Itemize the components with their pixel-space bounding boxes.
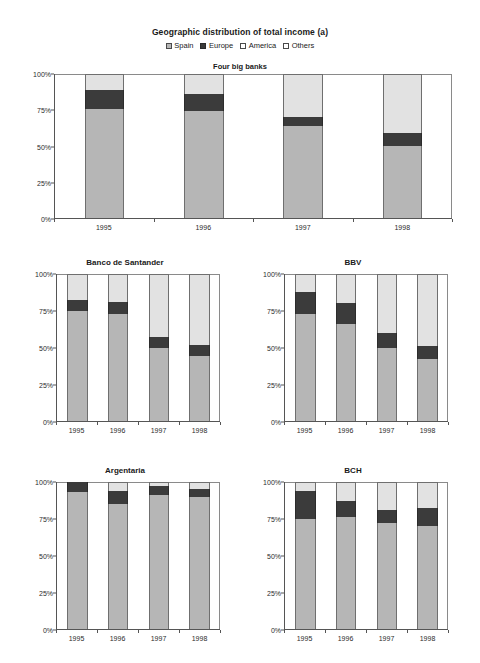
legend-item-america: America	[240, 41, 276, 50]
stacked-bar[interactable]	[149, 482, 169, 629]
x-tick-mark	[407, 422, 408, 425]
x-tick-mark	[325, 422, 326, 425]
bar-segment-spain	[108, 504, 128, 629]
bar-slot	[98, 274, 139, 421]
y-tick-label: 100%	[35, 479, 53, 486]
stacked-bar[interactable]	[189, 274, 209, 421]
chart-title: BCH	[258, 466, 448, 475]
bar-slot	[285, 482, 326, 629]
bar-slot	[57, 274, 98, 421]
bar-segment-spain	[189, 356, 209, 421]
stacked-bar[interactable]	[417, 482, 437, 629]
bar-segment-spain	[283, 126, 323, 218]
y-tick-label: 25%	[37, 179, 51, 186]
y-tick-label: 75%	[37, 107, 51, 114]
bar-segment-others	[149, 274, 169, 337]
x-tick-mark	[366, 422, 367, 425]
x-tick-mark	[220, 422, 221, 425]
bar-group	[285, 482, 448, 629]
y-tick-label: 100%	[263, 479, 281, 486]
x-tick-label: 1995	[284, 635, 325, 642]
bar-segment-europe	[336, 501, 356, 517]
legend-label-america: America	[249, 41, 277, 50]
x-tick-label: 1996	[97, 427, 138, 434]
bar-segment-spain	[85, 109, 125, 218]
legend-label-spain: Spain	[174, 41, 193, 50]
stacked-bar[interactable]	[295, 482, 315, 629]
y-tick-label: 50%	[267, 345, 281, 352]
x-tick-mark	[325, 630, 326, 633]
y-tick-label: 75%	[267, 308, 281, 315]
bar-slot	[407, 274, 448, 421]
y-tick-label: 25%	[39, 382, 53, 389]
bar-segment-europe	[108, 491, 128, 504]
bar-segment-europe	[295, 491, 315, 519]
bar-segment-spain	[67, 492, 87, 629]
x-tick-label: 1997	[366, 427, 407, 434]
stacked-bar[interactable]	[377, 482, 397, 629]
chart-bbv: BBV0%25%50%75%100%1995199619971998	[258, 258, 448, 438]
stacked-bar[interactable]	[417, 274, 437, 421]
bar-segment-others	[189, 482, 209, 489]
stacked-bar[interactable]	[336, 274, 356, 421]
y-axis: 0%25%50%75%100%	[28, 74, 54, 219]
bar-segment-others	[67, 274, 87, 300]
bar-segment-others	[283, 74, 323, 117]
chart-bch: BCH0%25%50%75%100%1995199619971998	[258, 466, 448, 646]
x-tick-label: 1995	[56, 635, 97, 642]
bar-segment-spain	[377, 348, 397, 422]
y-tick-label: 75%	[39, 308, 53, 315]
y-tick-label: 25%	[39, 590, 53, 597]
stacked-bar[interactable]	[283, 74, 323, 218]
x-tick-mark	[353, 219, 354, 222]
y-tick-label: 50%	[267, 553, 281, 560]
bar-slot	[367, 482, 408, 629]
y-tick-label: 100%	[35, 271, 53, 278]
x-tick-label: 1996	[325, 427, 366, 434]
stacked-bar[interactable]	[108, 274, 128, 421]
stacked-bar[interactable]	[383, 74, 423, 218]
y-tick-label: 50%	[39, 553, 53, 560]
stacked-bar[interactable]	[336, 482, 356, 629]
y-tick-label: 100%	[33, 71, 51, 78]
bar-segment-spain	[336, 324, 356, 421]
bar-slot	[254, 74, 353, 218]
stacked-bar[interactable]	[189, 482, 209, 629]
bar-segment-europe	[377, 333, 397, 348]
bar-segment-others	[377, 274, 397, 333]
stacked-bar[interactable]	[149, 274, 169, 421]
stacked-bar[interactable]	[67, 482, 87, 629]
stacked-bar[interactable]	[295, 274, 315, 421]
x-tick-mark	[179, 630, 180, 633]
x-tick-label: 1996	[325, 635, 366, 642]
y-tick-label: 75%	[267, 516, 281, 523]
stacked-bar[interactable]	[108, 482, 128, 629]
y-axis: 0%25%50%75%100%	[30, 274, 56, 422]
x-tick-mark	[284, 422, 285, 425]
y-tick-label: 0%	[271, 627, 281, 634]
legend-item-others: Others	[283, 41, 314, 50]
x-axis-labels: 1995199619971998	[284, 427, 448, 434]
plot-box	[284, 482, 448, 630]
plot-area: 0%25%50%75%100%1995199619971998	[30, 274, 220, 422]
x-axis-labels: 1995199619971998	[284, 635, 448, 642]
bar-segment-spain	[417, 526, 437, 629]
legend-swatch-europe	[200, 43, 206, 49]
stacked-bar[interactable]	[67, 274, 87, 421]
x-tick-label: 1995	[54, 224, 154, 231]
plot-area: Four big banks0%25%50%75%100%19951996199…	[28, 74, 452, 219]
bar-slot	[353, 74, 452, 218]
stacked-bar[interactable]	[184, 74, 224, 218]
stacked-bar[interactable]	[377, 274, 397, 421]
stacked-bar[interactable]	[85, 74, 125, 218]
x-tick-mark	[56, 422, 57, 425]
bar-group	[57, 274, 220, 421]
legend-item-spain: Spain	[166, 41, 194, 50]
bar-segment-europe	[108, 302, 128, 314]
x-tick-mark	[220, 630, 221, 633]
bar-segment-spain	[67, 311, 87, 421]
bar-segment-europe	[189, 489, 209, 496]
figure-legend: Spain Europe America Others	[0, 41, 480, 50]
x-tick-mark	[138, 422, 139, 425]
x-tick-mark	[366, 630, 367, 633]
